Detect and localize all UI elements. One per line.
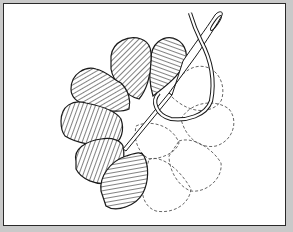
embroidery-diagram: [4, 4, 287, 227]
dashed-petal: [142, 158, 191, 211]
unstitched-petals: [135, 66, 234, 211]
illustration-frame: [3, 3, 286, 226]
stitched-petals: [61, 38, 186, 209]
